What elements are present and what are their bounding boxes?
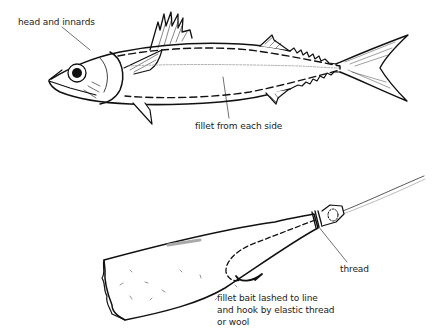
hook-head xyxy=(322,205,344,226)
fish-eye-pupil xyxy=(72,68,82,78)
fish-illustration xyxy=(49,12,408,124)
anal-fin xyxy=(266,90,288,104)
tail-fin xyxy=(336,35,408,101)
label-head-and-innards: head and innards xyxy=(18,17,95,28)
thread-leader-line xyxy=(318,226,347,262)
label-bait-line-1: fillet bait lashed to line xyxy=(217,293,318,304)
label-bait-line-3: or wool xyxy=(217,317,249,328)
pelvic-fin xyxy=(133,103,152,124)
fillet-leader-line xyxy=(223,77,229,118)
lower-finlets xyxy=(290,72,340,89)
upper-finlets xyxy=(290,48,336,64)
second-dorsal-fin xyxy=(260,35,288,50)
lateral-line xyxy=(128,65,340,69)
fish-body-upper xyxy=(51,43,290,79)
fishing-line xyxy=(343,176,424,211)
head-leader-line xyxy=(62,27,90,50)
label-bait-line-2: and hook by elastic thread xyxy=(217,305,334,316)
label-thread: thread xyxy=(340,264,369,275)
diagram-canvas xyxy=(0,0,436,335)
fish-body-lower xyxy=(49,81,290,105)
label-fillet-from-each-side: fillet from each side xyxy=(195,121,282,132)
gill-cover xyxy=(100,52,123,104)
